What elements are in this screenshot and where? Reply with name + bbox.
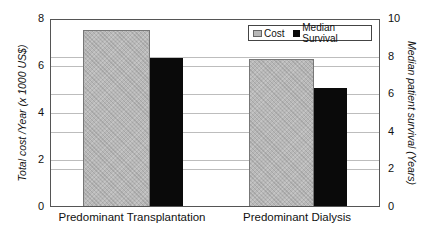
right-tick: 4	[388, 126, 408, 137]
legend-label-survival: Median Survival	[302, 22, 363, 44]
legend-label-cost: Cost	[264, 28, 285, 39]
bar-cost-transplantation	[83, 30, 150, 206]
x-category-label: Predominant Dialysis	[243, 211, 351, 223]
x-category-label: Predominant Transplantation	[58, 211, 205, 223]
legend-swatch-cost	[253, 30, 262, 37]
bar-survival-dialysis	[314, 88, 347, 206]
legend-swatch-survival	[293, 30, 301, 37]
right-tick: 8	[388, 51, 408, 62]
right-tick: 10	[388, 13, 408, 24]
y-axis-label-right: Median patient survival (Years)	[406, 41, 418, 185]
left-tick: 4	[34, 107, 44, 118]
right-tick: 6	[388, 88, 408, 99]
legend: Cost Median Survival	[248, 25, 372, 41]
right-tick: 2	[388, 163, 408, 174]
left-tick: 8	[34, 13, 44, 24]
plot-area	[50, 19, 380, 207]
bar-survival-transplantation	[150, 58, 183, 206]
y-axis-label-left: Total cost /Year (x 1000 US$)	[16, 45, 28, 182]
legend-item-cost: Cost	[253, 28, 285, 39]
right-tick: 0	[388, 201, 408, 212]
legend-item-survival: Median Survival	[293, 22, 363, 44]
left-tick: 0	[34, 201, 44, 212]
bar-cost-dialysis	[249, 59, 314, 206]
left-tick: 2	[34, 154, 44, 165]
left-tick: 6	[34, 60, 44, 71]
